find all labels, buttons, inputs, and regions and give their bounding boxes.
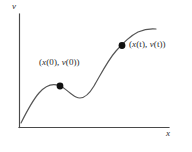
current-state-x-arg: (t), bbox=[136, 39, 150, 49]
initial-state-x-arg: (0), bbox=[46, 57, 62, 67]
initial-state-point bbox=[57, 83, 64, 90]
current-state-label: (x(t), v(t)) bbox=[129, 40, 166, 49]
current-state-v-arg: (t)) bbox=[154, 39, 166, 49]
phase-plane-figure: v x (x(0), v(0)) (x(t), v(t)) bbox=[0, 0, 192, 152]
figure-canvas bbox=[0, 0, 192, 152]
x-axis-label: x bbox=[166, 129, 170, 138]
v-axis-label: v bbox=[12, 2, 16, 11]
initial-state-v-arg: (0)) bbox=[66, 57, 80, 67]
current-state-point bbox=[119, 42, 126, 49]
initial-state-label: (x(0), v(0)) bbox=[39, 58, 80, 67]
